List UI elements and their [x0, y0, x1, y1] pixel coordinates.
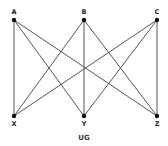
node-z: [155, 114, 159, 118]
utility-graph-diagram: ABCXYZ UG: [0, 0, 168, 146]
node-label-y: Y: [81, 120, 87, 128]
node-c: [155, 18, 159, 22]
node-a: [12, 18, 16, 22]
node-y: [82, 114, 86, 118]
node-label-c: C: [155, 8, 160, 16]
node-label-z: Z: [155, 120, 160, 128]
node-b: [82, 18, 86, 22]
node-x: [12, 114, 16, 118]
node-label-x: X: [11, 120, 16, 128]
node-label-a: A: [11, 8, 16, 16]
diagram-caption: UG: [78, 134, 90, 142]
node-label-b: B: [82, 8, 87, 16]
edge-group: [14, 20, 157, 116]
